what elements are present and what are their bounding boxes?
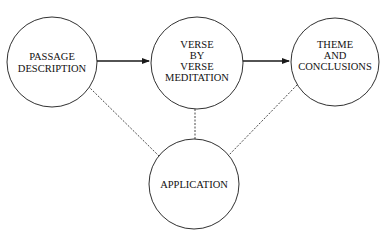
node-theme-and-conclusions: THEME AND CONCLUSIONS xyxy=(291,18,379,106)
edge-passage-to-application xyxy=(88,86,160,157)
node-label: DESCRIPTION xyxy=(18,63,87,74)
node-label: APPLICATION xyxy=(160,179,228,190)
node-label: PASSAGE xyxy=(29,51,75,62)
node-label: VERSE xyxy=(180,61,213,72)
node-label: VERSE xyxy=(180,39,213,50)
node-application: APPLICATION xyxy=(149,139,239,229)
flow-diagram: PASSAGE DESCRIPTION VERSE BY VERSE MEDIT… xyxy=(0,0,385,238)
node-label: MEDITATION xyxy=(165,72,229,83)
node-label: BY xyxy=(190,50,205,61)
node-verse-by-verse-meditation: VERSE BY VERSE MEDITATION xyxy=(151,17,243,109)
node-label: AND xyxy=(324,50,347,61)
node-passage-description: PASSAGE DESCRIPTION xyxy=(7,17,97,107)
node-label: CONCLUSIONS xyxy=(298,61,372,72)
edge-theme-to-application xyxy=(229,85,297,155)
node-label: THEME xyxy=(317,39,353,50)
